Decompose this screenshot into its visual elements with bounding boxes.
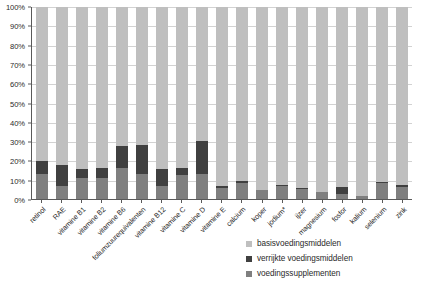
bar-stack[interactable]	[396, 7, 408, 199]
legend-swatch-icon	[246, 256, 252, 262]
bar-segment	[116, 168, 128, 199]
bar-segment	[236, 183, 248, 199]
bar-segment	[116, 7, 128, 146]
bar-segment	[96, 168, 108, 178]
bar-segment	[296, 7, 308, 188]
x-tick-mark	[282, 200, 283, 203]
bar-slot	[372, 7, 392, 199]
bar-stack[interactable]	[296, 7, 308, 199]
x-tick-mark	[382, 200, 383, 203]
bar-slot	[112, 7, 132, 199]
bar-stack[interactable]	[56, 7, 68, 199]
x-tick-mark	[181, 200, 182, 203]
bar-stack[interactable]	[76, 7, 88, 199]
bar-segment	[276, 7, 288, 185]
x-tick-mark	[262, 200, 263, 203]
x-tick-mark	[342, 200, 343, 203]
bar-stack[interactable]	[376, 7, 388, 199]
x-tick-mark	[141, 200, 142, 203]
bar-slot	[72, 7, 92, 199]
bar-segment	[96, 178, 108, 199]
bar-segment	[116, 146, 128, 168]
y-tick-label: 10%	[10, 176, 25, 185]
bar-segment	[216, 7, 228, 186]
bar-stack[interactable]	[156, 7, 168, 199]
bar-segment	[36, 174, 48, 199]
y-tick-label: 40%	[10, 118, 25, 127]
bar-stack[interactable]	[276, 7, 288, 199]
bar-stack[interactable]	[96, 7, 108, 199]
y-tick-label: 100%	[6, 3, 25, 12]
bar-slot	[232, 7, 252, 199]
bar-slot	[152, 7, 172, 199]
bar-segment	[176, 7, 188, 168]
bar-stack[interactable]	[176, 7, 188, 199]
bar-segment	[396, 187, 408, 199]
bar-stack[interactable]	[36, 7, 48, 199]
bar-segment	[356, 7, 368, 196]
x-tick-mark	[221, 200, 222, 203]
bar-segment	[336, 187, 348, 195]
x-tick-mark	[201, 200, 202, 203]
bar-segment	[336, 194, 348, 199]
x-tick-slot: vitamine E	[211, 200, 231, 262]
x-tick-mark	[362, 200, 363, 203]
bar-slot	[272, 7, 292, 199]
bar-slot	[172, 7, 192, 199]
legend-item[interactable]: voedingssupplementen	[246, 266, 432, 281]
legend-swatch-icon	[246, 241, 252, 247]
bar-segment	[356, 196, 368, 199]
bar-stack[interactable]	[256, 7, 268, 199]
x-tick-mark	[101, 200, 102, 203]
x-tick-mark	[161, 200, 162, 203]
bar-stack[interactable]	[136, 7, 148, 199]
bar-stack[interactable]	[196, 7, 208, 199]
bar-stack[interactable]	[236, 7, 248, 199]
bar-stack[interactable]	[116, 7, 128, 199]
bar-stack[interactable]	[356, 7, 368, 199]
bar-stack[interactable]	[316, 7, 328, 199]
bar-segment	[216, 188, 228, 199]
bar-segment	[36, 161, 48, 174]
bar-slot	[52, 7, 72, 199]
bar-segment	[56, 7, 68, 165]
x-tick-slot: retinol	[31, 200, 51, 262]
bar-slot	[92, 7, 112, 199]
bar-slot	[392, 7, 412, 199]
y-tick-label: 80%	[10, 41, 25, 50]
legend-item[interactable]: basisvoedingsmiddelen	[246, 236, 432, 251]
y-tick-label: 90%	[10, 22, 25, 31]
bar-segment	[156, 186, 168, 199]
x-tick-label: fosfor	[329, 205, 348, 224]
bar-slot	[252, 7, 272, 199]
y-tick-label: 0%	[14, 196, 25, 205]
bar-slot	[212, 7, 232, 199]
x-tick-mark	[402, 200, 403, 203]
y-axis: 0%10%20%30%40%50%60%70%80%90%100%	[0, 0, 31, 200]
stacked-bar-chart: 0%10%20%30%40%50%60%70%80%90%100% retino…	[0, 0, 434, 290]
x-tick-mark	[81, 200, 82, 203]
bar-segment	[56, 165, 68, 185]
bar-segment	[376, 7, 388, 182]
y-tick-label: 50%	[10, 99, 25, 108]
x-tick-label: retinol	[28, 205, 48, 225]
x-tick-label: ijzer	[293, 205, 308, 220]
bar-slot	[192, 7, 212, 199]
legend-swatch-icon	[246, 271, 252, 277]
y-tick-label: 20%	[10, 157, 25, 166]
plot-area	[31, 7, 412, 200]
bar-segment	[136, 145, 148, 174]
bar-segment	[256, 190, 268, 199]
chart-legend: basisvoedingsmiddelenverrijkte voedingsm…	[246, 236, 432, 281]
bar-segment	[296, 189, 308, 199]
legend-label: voedingssupplementen	[257, 269, 340, 278]
legend-item[interactable]: verrijkte voedingsmiddelen	[246, 251, 432, 266]
bar-segment	[76, 7, 88, 169]
x-tick-mark	[61, 200, 62, 203]
bar-segment	[56, 186, 68, 199]
bar-segment	[276, 186, 288, 199]
y-tick-label: 70%	[10, 60, 25, 69]
bar-segment	[196, 7, 208, 141]
bar-stack[interactable]	[216, 7, 228, 199]
bar-stack[interactable]	[336, 7, 348, 199]
